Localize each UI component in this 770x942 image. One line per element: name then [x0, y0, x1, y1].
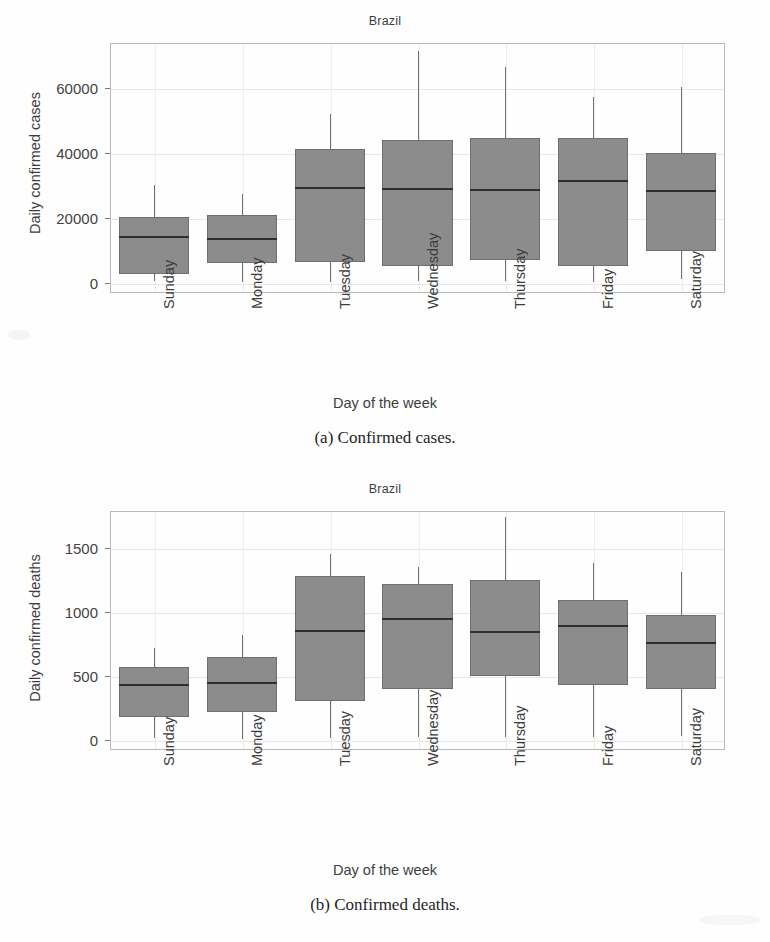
- median-line-monday: [207, 238, 277, 240]
- y-tick-label: 500: [0, 667, 98, 684]
- x-tick-label-tuesday: Tuesday: [337, 254, 353, 309]
- median-line-wednesday: [382, 618, 452, 620]
- median-line-monday: [207, 682, 277, 684]
- x-tick-label-sunday: Sunday: [161, 260, 177, 309]
- x-tick-label-thursday: Thursday: [512, 249, 528, 309]
- box-sunday: [119, 667, 189, 717]
- caption-b: (b) Confirmed deaths.: [0, 895, 770, 915]
- x-gridline: [243, 512, 244, 749]
- y-tick-label: 40000: [0, 145, 98, 162]
- median-line-saturday: [646, 642, 716, 644]
- y-tick-mark: [105, 218, 110, 219]
- figure-confirmed-cases: Brazil Daily confirmed cases Day of the …: [0, 0, 770, 470]
- median-line-wednesday: [382, 188, 452, 190]
- y-tick-mark: [105, 676, 110, 677]
- y-tick-mark: [105, 548, 110, 549]
- y-tick-label: 20000: [0, 210, 98, 227]
- box-thursday: [470, 138, 540, 260]
- box-tuesday: [295, 149, 365, 263]
- y-tick-mark: [105, 740, 110, 741]
- median-line-friday: [558, 625, 628, 627]
- x-axis-title-a: Day of the week: [0, 395, 770, 411]
- box-friday: [558, 138, 628, 266]
- x-tick-label-saturday: Saturday: [688, 251, 704, 309]
- y-tick-label: 60000: [0, 80, 98, 97]
- y-gridline: [111, 741, 724, 742]
- figure-confirmed-deaths: Brazil Daily confirmed deaths Day of the…: [0, 470, 770, 942]
- y-tick-label: 0: [0, 275, 98, 292]
- median-line-thursday: [470, 631, 540, 633]
- median-line-saturday: [646, 190, 716, 192]
- y-tick-label: 0: [0, 731, 98, 748]
- x-tick-label-friday: Friday: [600, 726, 616, 766]
- median-line-thursday: [470, 189, 540, 191]
- chart-title-b: Brazil: [0, 482, 770, 496]
- y-tick-label: 1000: [0, 603, 98, 620]
- median-line-sunday: [119, 684, 189, 686]
- y-tick-label: 1500: [0, 540, 98, 557]
- box-wednesday: [382, 140, 452, 266]
- box-sunday: [119, 217, 189, 273]
- median-line-tuesday: [295, 630, 365, 632]
- x-tick-label-monday: Monday: [249, 257, 265, 309]
- box-monday: [207, 657, 277, 712]
- y-tick-mark: [105, 612, 110, 613]
- x-axis-title-b: Day of the week: [0, 862, 770, 878]
- box-saturday: [646, 153, 716, 251]
- box-wednesday: [382, 584, 452, 688]
- y-gridline: [111, 549, 724, 550]
- x-tick-label-wednesday: Wednesday: [425, 690, 441, 766]
- x-tick-label-friday: Friday: [600, 269, 616, 309]
- box-thursday: [470, 580, 540, 676]
- y-gridline: [111, 284, 724, 285]
- box-saturday: [646, 615, 716, 689]
- x-tick-label-thursday: Thursday: [512, 706, 528, 766]
- median-line-friday: [558, 180, 628, 182]
- median-line-sunday: [119, 236, 189, 238]
- chart-title-a: Brazil: [0, 14, 770, 28]
- y-tick-mark: [105, 88, 110, 89]
- box-tuesday: [295, 576, 365, 701]
- x-tick-label-sunday: Sunday: [161, 717, 177, 766]
- y-tick-mark: [105, 283, 110, 284]
- x-tick-label-monday: Monday: [249, 714, 265, 766]
- x-tick-label-wednesday: Wednesday: [425, 233, 441, 309]
- x-tick-label-saturday: Saturday: [688, 708, 704, 766]
- x-tick-label-tuesday: Tuesday: [337, 711, 353, 766]
- caption-a: (a) Confirmed cases.: [0, 428, 770, 448]
- box-friday: [558, 600, 628, 684]
- y-tick-mark: [105, 153, 110, 154]
- median-line-tuesday: [295, 187, 365, 189]
